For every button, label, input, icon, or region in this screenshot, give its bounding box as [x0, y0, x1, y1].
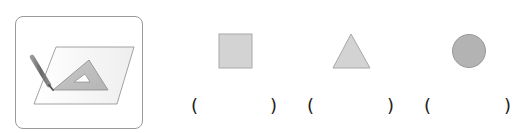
answer-2-close-paren: ) [387, 96, 394, 116]
answer-2-open-paren: ( [307, 96, 314, 116]
answer-1-blank[interactable] [204, 96, 268, 116]
answer-3-close-paren: ) [504, 96, 511, 116]
answer-2-blank[interactable] [320, 96, 384, 116]
answer-1-open-paren: ( [191, 96, 198, 116]
pencil-set-square-icon [1, 1, 161, 133]
answer-3-blank[interactable] [437, 96, 501, 116]
answer-3-open-paren: ( [424, 96, 431, 116]
illustration-box [15, 16, 143, 129]
answer-1-close-paren: ) [270, 96, 277, 116]
triangle-shape [331, 32, 373, 70]
circle-shape [451, 33, 487, 69]
square-shape [218, 33, 254, 70]
